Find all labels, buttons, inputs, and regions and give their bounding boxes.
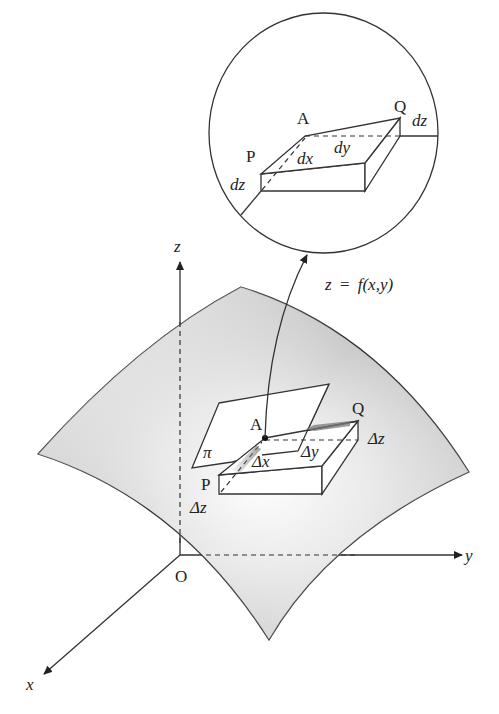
equation-label: z = f(x,y) xyxy=(324,275,393,294)
mag-label-dy: dy xyxy=(334,138,351,157)
mag-label-dz-left: dz xyxy=(230,175,246,194)
mag-label-q: Q xyxy=(394,97,406,116)
label-p: P xyxy=(201,475,210,494)
mag-label-dx: dx xyxy=(297,149,314,168)
label-q: Q xyxy=(352,399,364,418)
mag-label-p: P xyxy=(246,147,255,166)
mag-label-a: A xyxy=(297,109,310,128)
label-delta-z-left: Δz xyxy=(189,498,207,517)
magnified-view xyxy=(209,13,438,253)
x-axis-label: x xyxy=(25,675,34,694)
label-delta-y: Δy xyxy=(300,442,319,461)
label-delta-x: Δx xyxy=(251,452,270,471)
label-a: A xyxy=(250,415,263,434)
z-axis-label: z xyxy=(173,237,181,256)
x-axis xyxy=(44,555,180,674)
label-delta-z-right: Δz xyxy=(367,429,385,448)
total-differential-diagram: z y x O z = f(x,y) A Q P π Δx Δy Δz Δz A… xyxy=(0,0,499,714)
label-pi: π xyxy=(203,443,212,462)
mag-label-dz-right: dz xyxy=(412,111,428,130)
origin-label: O xyxy=(175,567,187,586)
y-axis-label: y xyxy=(463,546,473,565)
